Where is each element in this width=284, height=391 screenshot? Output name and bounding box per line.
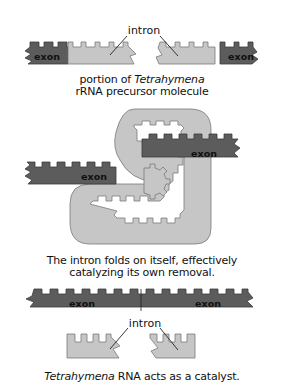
caption-precursor-line2: rRNA precursor molecule	[0, 86, 284, 98]
intron-label-bottom: intron	[129, 317, 161, 330]
exon-label-top-left: exon	[34, 51, 60, 62]
caption-catalyst: Tetrahymena RNA acts as a catalyst.	[0, 371, 284, 383]
exon-label-middle-right: exon	[191, 148, 217, 159]
caption-folded: The intron folds on itself, effectively …	[0, 255, 284, 279]
intron-right-segment	[156, 42, 215, 64]
panel-spliced: exon exon intron	[26, 289, 253, 358]
intron-label-top: intron	[128, 24, 160, 37]
intron-left-segment	[68, 42, 136, 64]
exon-label-bottom-right: exon	[195, 298, 221, 309]
panel-precursor: intron exon exon	[25, 24, 258, 64]
excised-intron-right	[150, 334, 195, 358]
caption-folded-line2: catalyzing its own removal.	[0, 267, 284, 279]
exon-label-middle-left: exon	[81, 171, 107, 182]
exon-label-bottom-left: exon	[69, 298, 95, 309]
panel-folded: exon exon	[25, 109, 240, 244]
diagram-canvas: intron exon exon exon exon exon exon int…	[0, 0, 284, 391]
caption-catalyst-species: Tetrahymena	[44, 370, 114, 383]
caption-precursor: portion of Tetrahymena rRNA precursor mo…	[0, 74, 284, 98]
caption-catalyst-rest: RNA acts as a catalyst.	[115, 370, 240, 383]
exon-label-top-right: exon	[228, 51, 254, 62]
